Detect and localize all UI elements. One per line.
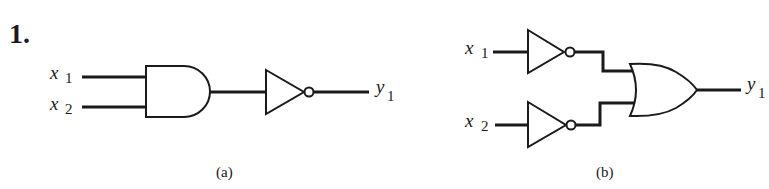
input-label-x2-b-var: x bbox=[464, 110, 474, 131]
output-label-y1-a-var: y bbox=[374, 76, 385, 97]
logic-diagram: 1. x 1 x 2 y 1 (a) x 1 x 2 bbox=[0, 0, 769, 189]
input-label-x2-b-sub: 2 bbox=[481, 118, 489, 134]
input-label-x1-a-sub: 1 bbox=[65, 70, 73, 86]
input-label-x1-b-sub: 1 bbox=[481, 45, 489, 61]
not-gate-2-icon bbox=[528, 102, 566, 147]
inversion-bubble-2-icon bbox=[567, 121, 576, 130]
circuit-a: x 1 x 2 y 1 (a) bbox=[49, 62, 395, 181]
output-label-y1-a-sub: 1 bbox=[387, 88, 395, 104]
input-label-x2-a-sub: 2 bbox=[65, 101, 73, 117]
inversion-bubble-1-icon bbox=[566, 48, 575, 57]
wire-not2-to-or bbox=[576, 103, 634, 125]
or-gate-icon bbox=[630, 64, 697, 116]
output-label-y1-b-var: y bbox=[745, 73, 756, 94]
inversion-bubble-icon bbox=[305, 88, 314, 97]
wire-not1-to-or bbox=[575, 52, 634, 71]
not-gate-1-icon bbox=[528, 30, 564, 73]
not-gate-icon bbox=[266, 70, 304, 114]
problem-number: 1. bbox=[9, 18, 30, 49]
circuit-b: x 1 x 2 y 1 (b) bbox=[464, 30, 766, 181]
input-label-x2-a-var: x bbox=[49, 93, 59, 114]
input-label-x1-a-var: x bbox=[49, 62, 59, 83]
caption-b: (b) bbox=[596, 164, 614, 181]
caption-a: (a) bbox=[216, 164, 233, 181]
output-label-y1-b-sub: 1 bbox=[758, 85, 766, 101]
and-gate-icon bbox=[146, 66, 210, 117]
input-label-x1-b-var: x bbox=[464, 37, 474, 58]
